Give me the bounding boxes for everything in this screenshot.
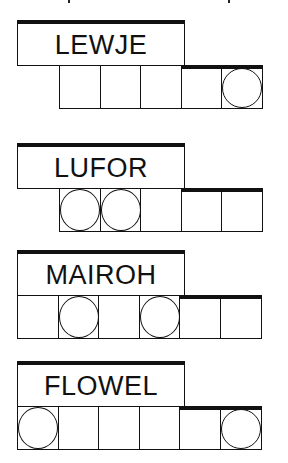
answer-cell-1[interactable] bbox=[59, 188, 101, 232]
answer-cell-3[interactable] bbox=[98, 406, 140, 450]
answer-cell-3[interactable] bbox=[98, 295, 140, 339]
answer-cell-1[interactable] bbox=[17, 295, 59, 339]
answer-cell-4[interactable] bbox=[139, 406, 181, 450]
scrambled-word: FLOWEL bbox=[44, 373, 158, 400]
scrambled-word-box: FLOWEL bbox=[17, 361, 185, 407]
scrambled-word-box: LEWJE bbox=[17, 20, 185, 66]
scrambled-word-box: MAIROH bbox=[17, 250, 185, 296]
answer-cell-5[interactable] bbox=[221, 65, 263, 109]
scrambled-word: MAIROH bbox=[46, 262, 157, 289]
answer-grid bbox=[17, 406, 262, 450]
answer-cell-3[interactable] bbox=[140, 188, 182, 232]
cropped-text-fragment bbox=[68, 0, 70, 3]
circled-letter-marker-icon bbox=[59, 296, 99, 338]
circled-letter-marker-icon bbox=[222, 68, 262, 108]
cropped-text-fragment bbox=[228, 0, 230, 3]
answer-cell-6[interactable] bbox=[220, 406, 262, 450]
answer-cell-2[interactable] bbox=[100, 188, 142, 232]
answer-grid bbox=[59, 188, 263, 232]
answer-cell-6[interactable] bbox=[220, 295, 262, 339]
circled-letter-marker-icon bbox=[221, 409, 261, 449]
answer-cell-2[interactable] bbox=[58, 406, 100, 450]
answer-grid bbox=[17, 295, 262, 339]
scrambled-word: LUFOR bbox=[54, 155, 148, 182]
answer-cell-3[interactable] bbox=[140, 65, 182, 109]
scrambled-word: LEWJE bbox=[55, 32, 148, 59]
answer-cell-5[interactable] bbox=[179, 295, 221, 339]
circled-letter-marker-icon bbox=[101, 189, 141, 231]
answer-cell-5[interactable] bbox=[221, 188, 263, 232]
circled-letter-marker-icon bbox=[18, 407, 58, 449]
scrambled-word-box: LUFOR bbox=[17, 143, 185, 189]
answer-cell-2[interactable] bbox=[58, 295, 100, 339]
answer-cell-4[interactable] bbox=[181, 188, 223, 232]
circled-letter-marker-icon bbox=[140, 296, 180, 338]
answer-cell-1[interactable] bbox=[59, 65, 101, 109]
circled-letter-marker-icon bbox=[60, 189, 100, 231]
answer-cell-4[interactable] bbox=[181, 65, 223, 109]
answer-cell-5[interactable] bbox=[179, 406, 221, 450]
answer-cell-2[interactable] bbox=[100, 65, 142, 109]
answer-grid bbox=[59, 65, 263, 109]
answer-cell-4[interactable] bbox=[139, 295, 181, 339]
answer-cell-1[interactable] bbox=[17, 406, 59, 450]
